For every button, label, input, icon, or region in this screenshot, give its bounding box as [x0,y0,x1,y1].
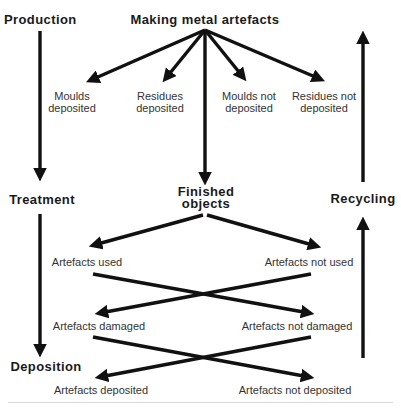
node-label-line2: deposited [286,102,362,114]
arrow-finished-not-used [207,215,316,246]
node-artefacts-not-used: Artefacts not used [258,256,360,268]
node-label-line2: deposited [42,102,102,114]
node-recycling: Recycling [328,191,398,206]
node-artefacts-used: Artefacts used [44,256,130,268]
node-artefacts-damaged: Artefacts damaged [48,320,150,332]
node-label-line1: Moulds [42,90,102,102]
node-label-line2: deposited [128,102,192,114]
node-moulds-deposited: Moulds deposited [42,90,102,114]
node-artefacts-not-deposited: Artefacts not deposited [232,384,358,396]
node-label-line2: objects [168,198,244,210]
arrow-making-residues-not-deposited [205,30,320,79]
node-artefacts-deposited: Artefacts deposited [48,384,154,396]
node-label-line2: deposited [216,102,282,114]
node-making-metal-artefacts: Making metal artefacts [130,12,280,27]
node-residues-not-deposited: Residues not deposited [286,90,362,114]
bottom-divider [8,402,393,403]
node-label-line1: Moulds not [216,90,282,102]
node-deposition: Deposition [10,359,82,374]
node-artefacts-not-damaged: Artefacts not damaged [236,320,358,332]
arrow-finished-used [94,215,203,245]
node-treatment: Treatment [6,192,78,207]
node-finished-objects: Finished objects [168,186,244,210]
node-moulds-not-deposited: Moulds not deposited [216,90,282,114]
node-residues-deposited: Residues deposited [128,90,192,114]
node-label-line1: Residues [128,90,192,102]
node-label-line1: Residues not [286,90,362,102]
arrow-making-moulds-deposited [91,30,205,80]
node-production: Production [4,12,76,27]
